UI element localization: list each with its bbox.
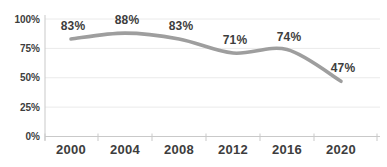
y-axis-tick-label: 50% bbox=[20, 72, 40, 83]
data-point-label: 88% bbox=[115, 13, 140, 27]
data-point-label: 71% bbox=[223, 33, 248, 47]
y-axis-tick-label: 25% bbox=[20, 102, 40, 113]
data-point-label: 47% bbox=[331, 61, 356, 75]
y-axis-tick-label: 0% bbox=[26, 131, 41, 142]
x-axis-tick-label: 2004 bbox=[110, 142, 141, 157]
x-axis-tick-label: 2008 bbox=[164, 142, 194, 157]
data-point-label: 74% bbox=[277, 30, 302, 44]
x-axis-tick-label: 2016 bbox=[272, 142, 302, 157]
data-point-label: 83% bbox=[61, 19, 86, 33]
y-axis-tick-label: 100% bbox=[14, 14, 40, 25]
line-chart: 0%25%50%75%100%2000200420082012201620208… bbox=[0, 0, 387, 167]
y-axis-tick-label: 75% bbox=[20, 43, 40, 54]
x-axis-tick-label: 2020 bbox=[326, 142, 356, 157]
x-axis-tick-label: 2012 bbox=[218, 142, 248, 157]
data-point-label: 83% bbox=[169, 19, 194, 33]
chart-canvas: 0%25%50%75%100%2000200420082012201620208… bbox=[0, 0, 387, 167]
x-axis-tick-label: 2000 bbox=[56, 142, 86, 157]
